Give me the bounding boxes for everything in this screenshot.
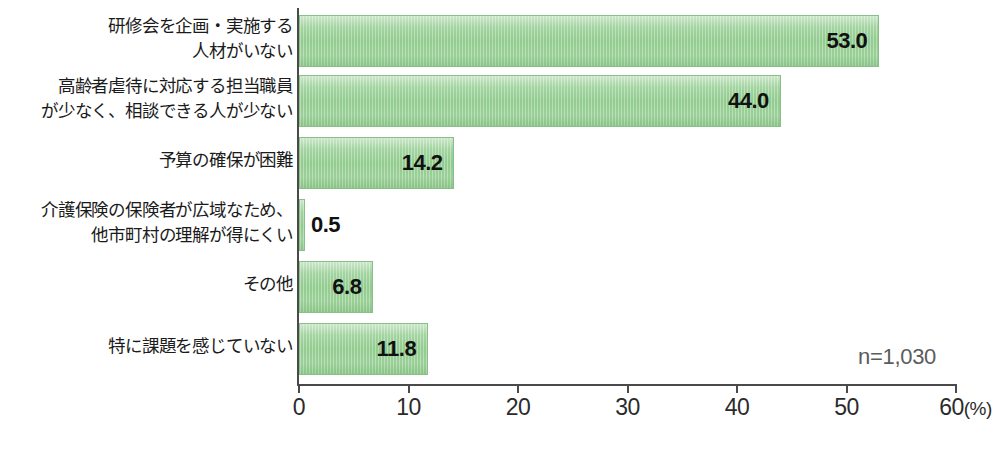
bar: 53.0 — [299, 15, 879, 67]
bar: 6.8 — [299, 261, 373, 313]
x-axis-unit-label: (%) — [964, 398, 992, 419]
bar-value-label: 11.8 — [377, 336, 417, 362]
bar-value-label: 53.0 — [827, 28, 868, 54]
x-axis-tick-label: 10 — [396, 394, 421, 421]
category-label: 介護保険の保険者が広域なため、 他市町村の理解が得にくい — [41, 198, 293, 248]
x-axis-tick-label: 40 — [725, 394, 750, 421]
x-axis-tick-label: 20 — [506, 394, 531, 421]
x-axis-tick — [736, 384, 738, 393]
x-axis-tick — [517, 384, 519, 393]
category-label: その他 — [243, 272, 293, 297]
bar: 11.8 — [299, 323, 428, 375]
sample-size-note: n=1,030 — [858, 344, 936, 370]
x-axis-tick — [408, 384, 410, 393]
category-label: 研修会を企画・実施する 人材がいない — [108, 14, 293, 64]
category-label: 特に課題を感じていない — [108, 334, 293, 359]
plot-area: 研修会を企画・実施する 人材がいない 高齢者虐待に対応する担当職員 が少なく、相… — [0, 0, 998, 455]
bar: 44.0 — [299, 75, 781, 127]
category-label: 予算の確保が困難 — [159, 148, 293, 173]
x-axis-tick — [627, 384, 629, 393]
y-axis-line — [297, 8, 299, 385]
bar: 0.5 — [299, 199, 305, 251]
x-axis-tick-label: 60(%) — [939, 394, 992, 421]
x-axis-tick-label: 50 — [834, 394, 859, 421]
bar-value-label: 14.2 — [402, 150, 443, 176]
bar-value-label: 44.0 — [728, 88, 769, 114]
horizontal-bar-chart: 研修会を企画・実施する 人材がいない 高齢者虐待に対応する担当職員 が少なく、相… — [0, 0, 998, 455]
x-axis-tick — [298, 384, 300, 393]
x-axis-tick — [955, 384, 957, 393]
bar: 14.2 — [299, 137, 454, 189]
x-axis-tick — [846, 384, 848, 393]
x-axis-tick-label: 0 — [293, 394, 305, 421]
x-axis-tick-label: 30 — [615, 394, 640, 421]
bar-value-label: 6.8 — [332, 274, 361, 300]
bar-value-label: 0.5 — [311, 212, 340, 238]
category-label: 高齢者虐待に対応する担当職員 が少なく、相談できる人が少ない — [41, 74, 293, 124]
